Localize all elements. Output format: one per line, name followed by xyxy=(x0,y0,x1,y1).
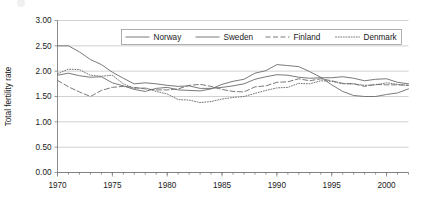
legend-label-denmark: Denmark xyxy=(364,33,398,42)
legend-label-sweden: Sweden xyxy=(224,33,254,42)
chart-figure: 0.000.501.001.502.002.503.00 19701975198… xyxy=(0,0,423,203)
y-tick-label: 1.00 xyxy=(36,118,52,127)
x-tick-label: 1985 xyxy=(213,181,232,190)
legend-label-norway: Norway xyxy=(154,33,183,42)
x-tick-label: 1975 xyxy=(103,181,122,190)
chart-legend: NorwaySwedenFinlandDenmark xyxy=(122,30,402,45)
y-tick-label: 2.00 xyxy=(36,67,52,76)
fertility-rate-line-chart: 0.000.501.001.502.002.503.00 19701975198… xyxy=(0,0,423,203)
y-tick-label: 0.00 xyxy=(36,168,52,177)
y-tick-label: 0.50 xyxy=(36,143,52,152)
x-tick-label: 1980 xyxy=(158,181,177,190)
x-tick-label: 2000 xyxy=(377,181,396,190)
y-axis-title: Total fertility rate xyxy=(4,66,13,126)
y-tick-label: 1.50 xyxy=(36,92,52,101)
x-tick-label: 1970 xyxy=(48,181,67,190)
y-tick-label: 3.00 xyxy=(36,16,52,25)
x-tick-label: 1990 xyxy=(268,181,287,190)
legend-label-finland: Finland xyxy=(294,33,321,42)
x-tick-label: 1995 xyxy=(323,181,342,190)
y-tick-label: 2.50 xyxy=(36,42,52,51)
